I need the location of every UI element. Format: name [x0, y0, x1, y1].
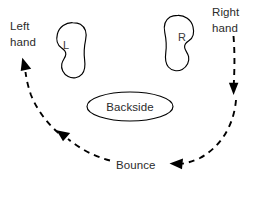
sweep-dashed-arrow — [68, 139, 110, 161]
left-footprint-outline — [57, 23, 86, 78]
right-footprint-outline — [164, 15, 193, 70]
bounce-dashed-arrow — [182, 100, 236, 164]
right-foot-letter: R — [178, 31, 186, 43]
right-hand-dashed-arrow — [234, 36, 235, 84]
right-hand-arrow-head — [229, 83, 239, 95]
right-hand-label-line2: hand — [212, 22, 238, 34]
backside-label: Backside — [106, 101, 153, 113]
left-hand-label-line2: hand — [10, 36, 36, 48]
bounce-arrow-head — [170, 158, 184, 169]
diagram-svg: L R Backside Left hand Right hand Bounce — [0, 0, 258, 197]
left-hand-dashed-arrow — [26, 72, 59, 133]
right-hand-label-line1: Right — [212, 6, 240, 18]
bounce-label: Bounce — [116, 159, 156, 171]
left-hand-label-line1: Left — [10, 20, 30, 32]
left-foot-letter: L — [63, 39, 69, 51]
diagram-canvas: L R Backside Left hand Right hand Bounce — [0, 0, 258, 197]
left-hand-arrow-head — [21, 58, 32, 71]
